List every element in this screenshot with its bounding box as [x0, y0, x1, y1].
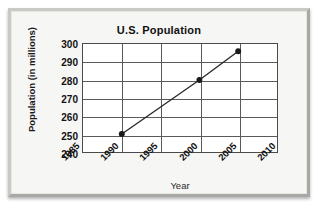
y-tick-label: 290: [38, 57, 78, 68]
y-axis-title: Population (in millions): [26, 20, 37, 140]
x-axis-title: Year: [82, 180, 278, 191]
y-tick-label: 270: [38, 94, 78, 105]
plot-area: 240250260270280290300 198519901995200020…: [82, 43, 278, 153]
y-tick-label: 250: [38, 130, 78, 141]
series-line: [122, 51, 238, 134]
figure-frame: U.S. Population Population (in millions)…: [8, 8, 310, 197]
y-tick-label: 280: [38, 75, 78, 86]
data-point-marker: [119, 131, 125, 137]
data-point-marker: [196, 77, 202, 83]
figure-panel: U.S. Population Population (in millions)…: [11, 11, 307, 194]
y-tick-label: 300: [38, 39, 78, 50]
data-series-line: [83, 44, 277, 152]
data-point-marker: [235, 48, 241, 54]
chart-title: U.S. Population: [12, 24, 306, 36]
y-tick-label: 260: [38, 112, 78, 123]
